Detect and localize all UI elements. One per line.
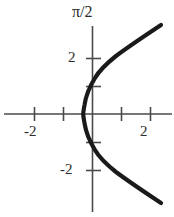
axes-group xyxy=(4,26,172,212)
y-axis-label-pos2: 2 xyxy=(68,50,76,65)
x-axis-label-neg2: -2 xyxy=(24,124,37,139)
y-axis-label-neg2: -2 xyxy=(60,162,73,177)
x-axis-label-pos2: 2 xyxy=(140,124,148,139)
math-figure: π/2 -2 2 2 -2 xyxy=(0,0,174,217)
plot-canvas xyxy=(0,0,174,217)
asymptote-label-pi-over-2: π/2 xyxy=(72,4,93,20)
